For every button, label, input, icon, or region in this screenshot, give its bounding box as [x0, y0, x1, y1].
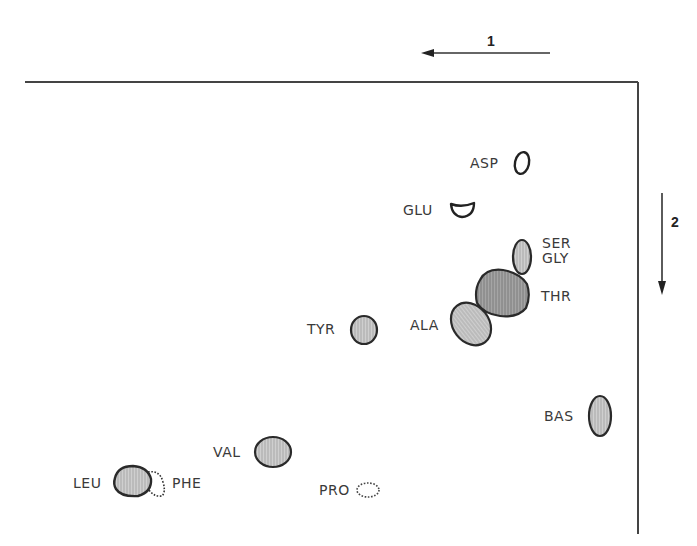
chromatogram-diagram — [0, 0, 697, 546]
spot-pro — [357, 483, 379, 497]
direction-2-label: 2 — [671, 214, 679, 230]
spot-glu — [451, 203, 474, 217]
label-ala: ALA — [410, 318, 439, 333]
spot-tyr — [351, 316, 377, 344]
direction-1-label: 1 — [487, 33, 495, 49]
label-asp: ASP — [470, 156, 498, 171]
label-ser: SER — [542, 236, 571, 251]
spot-asp — [513, 151, 531, 175]
spot-bas — [589, 396, 611, 436]
label-gly: GLY — [542, 251, 571, 266]
spot-thr — [476, 270, 529, 317]
label-pro: PRO — [319, 483, 350, 498]
label-leu: LEU — [73, 476, 101, 491]
spot-leu — [114, 466, 151, 496]
spot-ser-gly — [513, 240, 531, 274]
label-glu: GLU — [403, 203, 433, 218]
label-ser-gly: SER GLY — [542, 236, 571, 266]
label-phe: PHE — [172, 476, 201, 491]
label-val: VAL — [213, 445, 241, 460]
label-tyr: TYR — [307, 322, 335, 337]
plate-frame — [25, 82, 638, 534]
spot-val — [255, 437, 291, 467]
direction-2-arrow-icon — [658, 193, 666, 295]
label-bas: BAS — [544, 409, 574, 424]
direction-1-arrow-icon — [421, 49, 550, 57]
label-thr: THR — [541, 289, 571, 304]
